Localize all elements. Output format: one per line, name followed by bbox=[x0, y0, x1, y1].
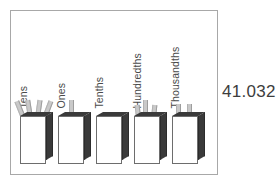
box-side bbox=[160, 112, 167, 160]
place-box-hundredths[interactable] bbox=[134, 112, 168, 164]
box-side bbox=[46, 112, 53, 160]
box-front bbox=[172, 116, 198, 164]
box-front bbox=[20, 116, 46, 164]
place-value-diagram: Tens Ones bbox=[0, 0, 280, 188]
place-box-tens[interactable] bbox=[20, 112, 54, 164]
place-value-columns: Tens Ones bbox=[18, 14, 214, 172]
box-side bbox=[198, 112, 205, 160]
box-front bbox=[58, 116, 84, 164]
box-side bbox=[84, 112, 91, 160]
numeral-value: 41.032 bbox=[222, 83, 276, 100]
place-box-thousandths[interactable] bbox=[172, 112, 206, 164]
place-box-ones[interactable] bbox=[58, 112, 92, 164]
box-side bbox=[122, 112, 129, 160]
place-box-tenths[interactable] bbox=[96, 112, 130, 164]
box-front bbox=[96, 116, 122, 164]
box-front bbox=[134, 116, 160, 164]
